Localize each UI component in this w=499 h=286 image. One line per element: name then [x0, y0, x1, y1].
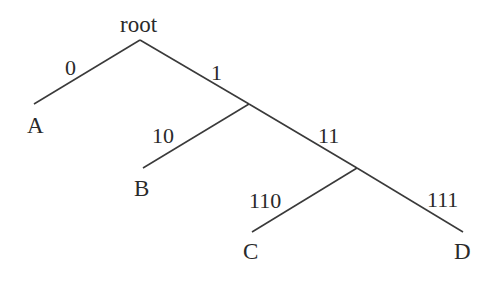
edge-label-11: 11	[318, 123, 339, 148]
edge-label-1: 1	[211, 60, 222, 85]
edge-root-n1	[140, 40, 249, 104]
edge-label-111: 111	[427, 187, 458, 212]
edge-label-110: 110	[249, 188, 281, 213]
node-d-label: D	[454, 239, 471, 264]
code-tree-diagram: root A B C D 0 1 10 11 110 111	[0, 0, 499, 286]
node-b-label: B	[134, 176, 149, 201]
edge-n1-n11	[249, 104, 357, 168]
edge-root-a	[34, 40, 140, 104]
node-c-label: C	[243, 239, 258, 264]
node-a-label: A	[27, 113, 44, 138]
root-label: root	[120, 12, 158, 37]
edge-label-0: 0	[65, 55, 76, 80]
edge-label-10: 10	[152, 123, 174, 148]
